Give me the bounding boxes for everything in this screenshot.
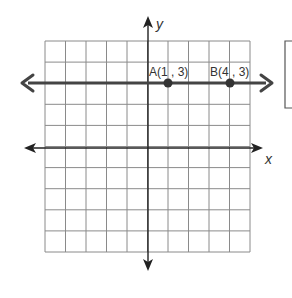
x-axis: [24, 143, 263, 153]
y-axis-label: y: [155, 16, 164, 32]
side-answer-box: [285, 41, 292, 108]
x-axis-label: x: [264, 151, 273, 167]
point-a-label: A(1 , 3): [149, 65, 188, 79]
point-b-label: B(4 , 3): [210, 65, 249, 79]
coordinate-plane: y x A(1 , 3) B(4 , 3): [0, 0, 292, 298]
y-axis: [143, 16, 153, 271]
